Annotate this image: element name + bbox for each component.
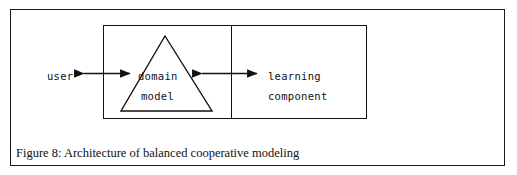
- label-learning-component-line2: component: [268, 86, 328, 106]
- label-domain-model-line1: domain: [138, 66, 178, 86]
- figure-caption: Figure 8: Architecture of balanced coope…: [16, 146, 299, 161]
- label-domain-model-line2: model: [141, 86, 174, 106]
- label-learning-component-line1: learning: [268, 66, 321, 86]
- label-user: user: [47, 66, 74, 86]
- figure-container: user domain model learning component Fig…: [0, 0, 517, 175]
- compartment-divider: [231, 25, 232, 119]
